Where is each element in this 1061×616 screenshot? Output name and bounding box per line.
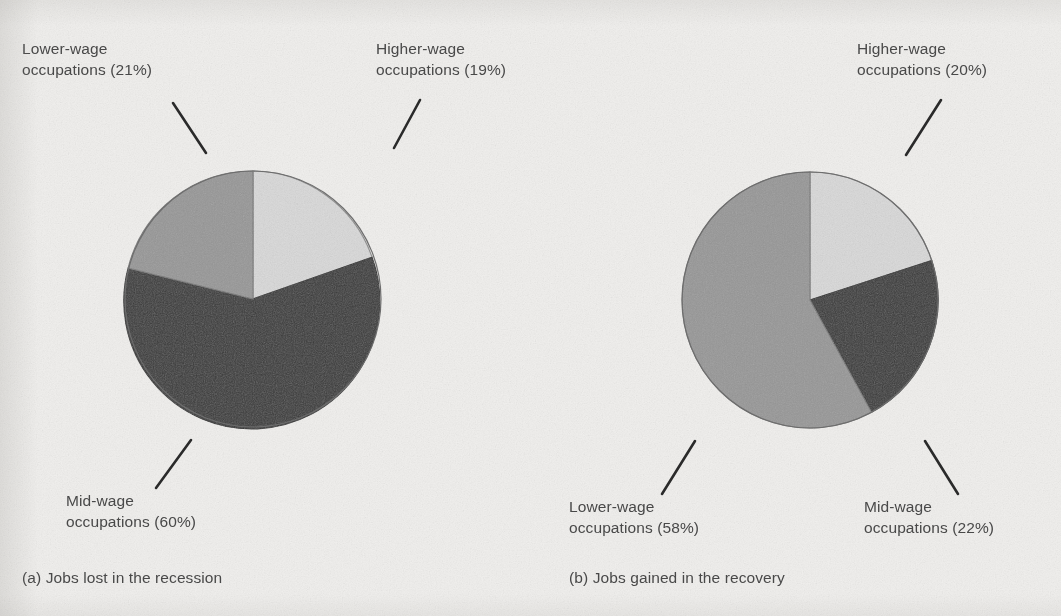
leader-line-b-higher-wage [906,100,941,155]
pie-a [124,171,381,429]
leader-line-a-mid-wage [156,440,191,488]
label-b-higher-wage: Higher-wage occupations (20%) [857,38,987,80]
leader-line-a-lower-wage [173,103,206,153]
caption-panel-a: (a) Jobs lost in the recession [22,568,222,588]
label-b-lower-wage: Lower-wage occupations (58%) [569,496,699,538]
figure-container: Lower-wage occupations (21%) Higher-wage… [0,0,1061,616]
pie-b [682,172,938,428]
leader-line-b-mid-wage [925,441,958,494]
label-a-mid-wage: Mid-wage occupations (60%) [66,490,196,532]
label-a-lower-wage: Lower-wage occupations (21%) [22,38,152,80]
leader-line-b-lower-wage [662,441,695,494]
label-a-higher-wage: Higher-wage occupations (19%) [376,38,506,80]
label-b-mid-wage: Mid-wage occupations (22%) [864,496,994,538]
caption-panel-b: (b) Jobs gained in the recovery [569,568,785,588]
leader-line-a-higher-wage [394,100,420,148]
